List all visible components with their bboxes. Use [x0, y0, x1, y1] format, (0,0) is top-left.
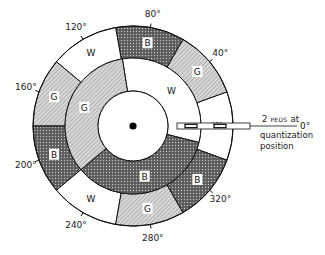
angle-label: 40° — [212, 48, 228, 58]
annotation: 2PEDSat quantization position — [260, 114, 313, 151]
outer-ring-segment-label: G — [144, 204, 151, 214]
angle-label: 320° — [209, 194, 231, 204]
sensor-bar — [177, 123, 297, 129]
angle-tick — [150, 24, 151, 28]
outer-ring-segment-label: B — [51, 150, 57, 160]
color-wheel-diagram: 0°40°80°120°160°200°240°280°320° WGBWGBW… — [0, 0, 325, 255]
angle-tick — [210, 59, 213, 62]
ped-sensor-1 — [185, 124, 197, 127]
outer-ring-segment-label: B — [194, 175, 200, 185]
angle-tick — [81, 36, 83, 39]
angle-tick — [81, 213, 83, 216]
outer-ring-segment-label: W — [87, 48, 96, 58]
angle-label: 80° — [145, 9, 161, 19]
angle-label: 200° — [15, 160, 37, 170]
angle-label: 160° — [15, 82, 37, 92]
annotation-line3: position — [260, 141, 294, 151]
outer-ring-segment-label: G — [194, 67, 201, 77]
angle-label: 280° — [142, 233, 164, 243]
annotation-line2: quantization — [260, 130, 313, 140]
outer-ring-segment-label: G — [51, 92, 58, 102]
angle-label: 240° — [65, 220, 87, 230]
angle-tick — [210, 190, 213, 193]
angle-tick — [150, 224, 151, 228]
outer-ring-segment-label: B — [144, 38, 150, 48]
ped-sensor-2 — [214, 124, 226, 127]
center-hub — [129, 122, 136, 129]
inner-ring-segment-label: W — [167, 86, 176, 96]
inner-ring-segment-label: B — [142, 172, 148, 182]
inner-ring-segment-label: G — [81, 103, 88, 113]
angle-label: 120° — [65, 22, 87, 32]
annotation-line1: 2PEDSat — [262, 114, 300, 124]
outer-ring-segment-label: W — [87, 194, 96, 204]
